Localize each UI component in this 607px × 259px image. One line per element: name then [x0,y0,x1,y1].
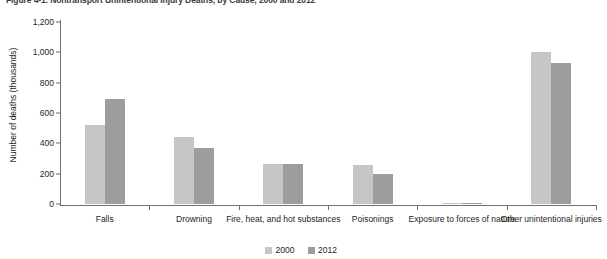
bar-2012[interactable] [105,99,125,204]
bar-2000[interactable] [85,125,105,204]
chart-legend: 20002012 [0,245,602,255]
legend-label: 2000 [276,245,295,255]
bar-2012[interactable] [373,174,393,204]
bar-2000[interactable] [174,137,194,204]
bar-2012[interactable] [551,63,571,204]
x-axis-tick-mark [417,205,418,210]
legend-item[interactable]: 2012 [308,245,337,255]
legend-swatch-2012 [308,247,315,254]
bar-group-bars [507,22,596,204]
x-axis-tick-mark [149,205,150,210]
figure-title: Figure 4-1. Nontransport Unintentional I… [6,0,315,5]
bar-group-bars [328,22,417,204]
legend-item[interactable]: 2000 [265,245,294,255]
bar-2000[interactable] [353,165,373,204]
bar-group: Fire, heat, and hot substances [239,22,328,204]
x-axis-tick-mark [507,205,508,210]
bar-group: Poisonings [328,22,417,204]
bar-group: Other unintentional injuries [507,22,596,204]
x-axis-tick-mark [596,205,597,210]
bar-2012[interactable] [462,203,482,204]
bar-group-bars [239,22,328,204]
bar-group: Falls [60,22,149,204]
bar-group-bars [149,22,238,204]
bar-2000[interactable] [263,164,283,204]
bar-group-bars [417,22,506,204]
x-axis-tick-mark [239,205,240,210]
bar-group-bars [60,22,149,204]
bar-group: Drowning [149,22,238,204]
bar-2000[interactable] [531,52,551,204]
x-axis-category-label: Other unintentional injuries [485,214,607,225]
bar-groups: FallsDrowningFire, heat, and hot substan… [60,22,596,204]
legend-label: 2012 [318,245,337,255]
bar-2012[interactable] [283,164,303,204]
x-axis-tick-mark [328,205,329,210]
legend-swatch-2000 [265,247,272,254]
bar-2000[interactable] [442,203,462,204]
plot-area: 1,2001,0008006004002000 FallsDrowningFir… [60,22,596,204]
bar-group: Exposure to forces of nature [417,22,506,204]
bar-2012[interactable] [194,148,214,204]
y-axis-title: Number of deaths (thousands) [8,10,18,200]
